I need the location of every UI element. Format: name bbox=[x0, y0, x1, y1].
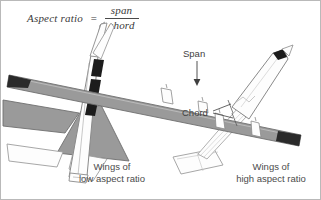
caption-high-line-2: high aspect ratio bbox=[221, 173, 321, 185]
turboprop-engine-nacelle-3 bbox=[161, 88, 173, 104]
jet-left-stabilizer bbox=[7, 144, 63, 167]
turboprop-propeller-3 bbox=[166, 84, 167, 88]
caption-high-aspect-ratio: Wings of high aspect ratio bbox=[221, 161, 321, 185]
caption-low-line-1: Wings of bbox=[63, 161, 161, 173]
span-label: Span bbox=[183, 48, 205, 59]
caption-high-line-1: Wings of bbox=[221, 161, 321, 173]
caption-low-line-2: low aspect ratio bbox=[63, 173, 161, 185]
turboprop-fuselage bbox=[232, 50, 288, 119]
turboprop-engine-nacelle-2 bbox=[251, 121, 261, 137]
turboprop-tailplane bbox=[173, 149, 223, 174]
turboprop-propeller-4 bbox=[202, 97, 203, 101]
chord-label: Chord bbox=[182, 107, 208, 118]
figure-container: Aspect ratio = span chord bbox=[0, 0, 321, 200]
turboprop-propeller-2 bbox=[255, 117, 256, 121]
jet-left-delta-wing bbox=[3, 100, 79, 133]
caption-low-aspect-ratio: Wings of low aspect ratio bbox=[63, 161, 161, 185]
span-leader-arrow bbox=[194, 61, 201, 86]
turboprop-propeller-1 bbox=[219, 109, 220, 113]
